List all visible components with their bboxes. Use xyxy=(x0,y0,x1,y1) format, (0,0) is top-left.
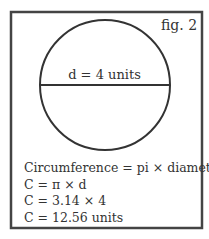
equation-line: C = 3.14 × 4 xyxy=(24,193,209,210)
equation-line: Circumference = pi × diameter xyxy=(24,160,209,177)
figure-label: fig. 2 xyxy=(161,17,197,33)
equation-line: C = π × d xyxy=(24,177,209,194)
equations-block: Circumference = pi × diameter C = π × d … xyxy=(24,160,209,226)
diameter-label: d = 4 units xyxy=(0,67,209,82)
equation-line: C = 12.56 units xyxy=(24,210,209,227)
